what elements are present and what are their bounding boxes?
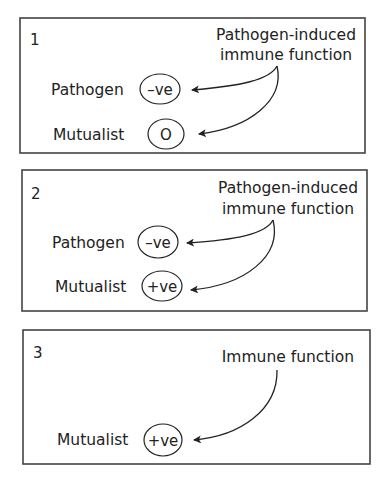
panel-1-number: 1 <box>30 31 40 49</box>
panel-2-pathogen-effect: –ve <box>145 234 171 252</box>
panel-2-number: 2 <box>31 185 41 203</box>
panel-3-mutualist-label: Mutualist <box>57 431 128 449</box>
panel-1-pathogen-effect: –ve <box>147 81 173 99</box>
panel-3-mutualist-effect: +ve <box>148 432 179 450</box>
panel-3-arrow-to-mutualist <box>194 370 277 440</box>
panel-1-source-line2: immune function <box>220 46 352 64</box>
panel-1-pathogen-label: Pathogen <box>51 81 124 99</box>
panel-2-source-line1: Pathogen-induced <box>218 179 358 197</box>
panel-1-mutualist-effect: O <box>160 126 172 144</box>
immune-function-diagram: 1 Pathogen-induced immune function Patho… <box>0 0 383 477</box>
panel-2-arrow-to-pathogen <box>187 220 273 243</box>
panel-3: 3 Immune function Mutualist +ve <box>23 330 370 464</box>
panel-2-pathogen-label: Pathogen <box>52 234 125 252</box>
panel-1-source-line1: Pathogen-induced <box>216 26 356 44</box>
panel-1-arrow-to-pathogen <box>192 66 277 90</box>
panel-2: 2 Pathogen-induced immune function Patho… <box>22 170 367 311</box>
panel-2-source-line2: immune function <box>222 200 354 218</box>
panel-1-mutualist-label: Mutualist <box>53 126 124 144</box>
panel-2-mutualist-effect: +ve <box>147 278 178 296</box>
panel-3-source-line1: Immune function <box>222 348 354 366</box>
panel-3-number: 3 <box>33 344 43 362</box>
panel-2-mutualist-label: Mutualist <box>55 278 126 296</box>
panel-1: 1 Pathogen-induced immune function Patho… <box>20 18 365 153</box>
